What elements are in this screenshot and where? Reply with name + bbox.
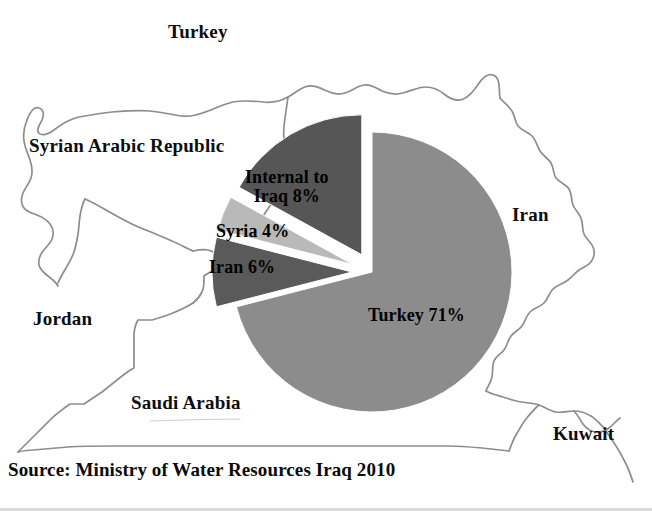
pie-chart <box>0 0 652 511</box>
pie-label-iran: Iran 6% <box>209 258 275 277</box>
figure-iraq-water-sources: Turkey Syrian Arabic Republic Iran Jorda… <box>0 0 652 511</box>
pie-label-internal-to-iraq: Internal to Iraq 8% <box>245 168 329 205</box>
pie-label-syria: Syria 4% <box>216 222 289 241</box>
source-caption: Source: Ministry of Water Resources Iraq… <box>8 459 395 481</box>
pie-label-turkey: Turkey 71% <box>368 306 465 325</box>
